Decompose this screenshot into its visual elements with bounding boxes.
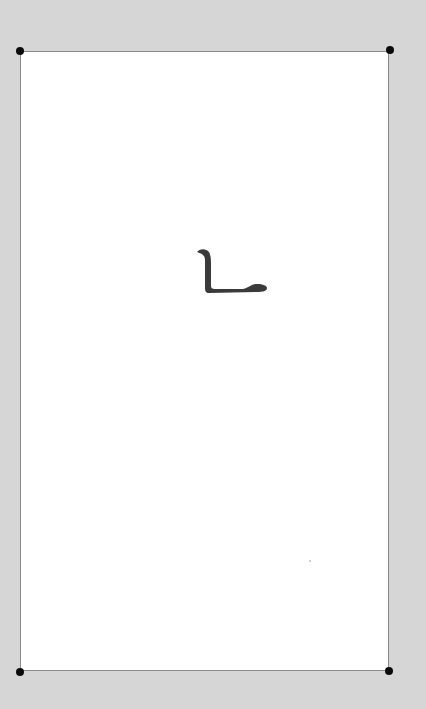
corner-handle-bottom-left[interactable]	[16, 668, 24, 676]
hangul-nieun-glyph	[197, 246, 269, 296]
corner-handle-top-right[interactable]	[386, 46, 394, 54]
scan-speck	[309, 560, 311, 562]
corner-handle-bottom-right[interactable]	[385, 667, 393, 675]
document-page	[20, 51, 389, 671]
corner-handle-top-left[interactable]	[16, 47, 24, 55]
